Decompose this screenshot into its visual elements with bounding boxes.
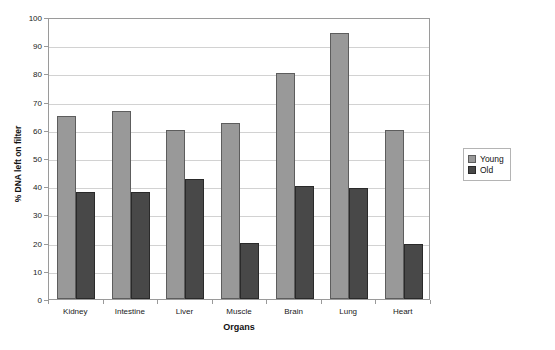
bar-brain-young (276, 73, 295, 299)
bar-muscle-young (221, 123, 240, 299)
x-tick-label: Liver (176, 307, 193, 316)
legend-swatch-icon (468, 166, 476, 174)
x-tick-mark (212, 300, 213, 304)
y-tick-label: 50 (33, 155, 42, 164)
bar-lung-old (349, 188, 368, 299)
x-tick-mark (48, 300, 49, 304)
x-tick-mark (103, 300, 104, 304)
y-tick-label: 60 (33, 126, 42, 135)
legend-label: Young (480, 154, 504, 164)
x-tick-mark (375, 300, 376, 304)
bar-kidney-old (76, 192, 95, 299)
x-tick-label: Intestine (115, 307, 145, 316)
x-tick-label: Heart (393, 307, 413, 316)
y-axis: 0102030405060708090100 (0, 18, 48, 300)
x-tick-mark (266, 300, 267, 304)
y-tick-label: 40 (33, 183, 42, 192)
x-tick-mark (321, 300, 322, 304)
bars-layer (49, 19, 429, 299)
bar-group (104, 19, 159, 299)
bar-heart-old (404, 244, 423, 299)
bar-group (213, 19, 268, 299)
bar-lung-young (330, 33, 349, 299)
y-tick-label: 70 (33, 98, 42, 107)
legend-item-young[interactable]: Young (468, 154, 504, 164)
y-tick-label: 90 (33, 42, 42, 51)
x-axis: KidneyIntestineLiverMuscleBrainLungHeart (48, 300, 430, 322)
y-tick-label: 100 (29, 14, 42, 23)
bar-muscle-old (240, 243, 259, 299)
y-tick-label: 80 (33, 70, 42, 79)
y-axis-label: % DNA left on filter (13, 94, 23, 234)
bar-kidney-young (57, 116, 76, 299)
bar-liver-old (185, 179, 204, 299)
bar-intestine-old (131, 192, 150, 299)
bar-group (376, 19, 431, 299)
bar-group (49, 19, 104, 299)
x-tick-mark (430, 300, 431, 304)
legend-label: Old (480, 165, 493, 175)
legend-swatch-icon (468, 155, 476, 163)
x-axis-label: Organs (48, 322, 430, 332)
y-tick-label: 10 (33, 267, 42, 276)
bar-brain-old (295, 186, 314, 299)
plot-area (48, 18, 430, 300)
bar-group (267, 19, 322, 299)
y-tick-label: 0 (38, 296, 42, 305)
chart-legend: YoungOld (463, 148, 511, 181)
legend-item-old[interactable]: Old (468, 165, 504, 175)
bar-group (158, 19, 213, 299)
bar-intestine-young (112, 111, 131, 299)
x-tick-label: Lung (339, 307, 357, 316)
x-tick-label: Brain (284, 307, 303, 316)
bar-liver-young (166, 130, 185, 299)
y-tick-label: 20 (33, 239, 42, 248)
x-tick-mark (157, 300, 158, 304)
x-tick-label: Muscle (226, 307, 251, 316)
y-tick-label: 30 (33, 211, 42, 220)
bar-group (322, 19, 377, 299)
x-tick-label: Kidney (63, 307, 87, 316)
bar-heart-young (385, 130, 404, 299)
